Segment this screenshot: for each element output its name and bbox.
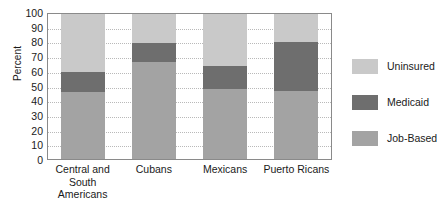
- plot-area: [47, 13, 332, 160]
- bar-segment-uninsured[interactable]: [61, 14, 105, 72]
- bar-segment-job-based[interactable]: [203, 89, 247, 159]
- bar-group: [190, 14, 261, 159]
- bar-segment-medicaid[interactable]: [61, 72, 105, 92]
- bar-segment-medicaid[interactable]: [203, 66, 247, 89]
- y-tick-label: 80: [31, 37, 43, 47]
- legend-swatch-icon: [352, 59, 378, 74]
- y-tick-label: 90: [31, 23, 43, 33]
- bar-segment-job-based[interactable]: [61, 92, 105, 159]
- y-tick-label: 60: [31, 67, 43, 77]
- y-tick-label: 20: [31, 126, 43, 136]
- bar-stack[interactable]: [61, 14, 105, 159]
- bar-stack[interactable]: [132, 14, 176, 159]
- legend-swatch-icon: [352, 95, 378, 110]
- y-tick-label: 50: [31, 82, 43, 92]
- legend-item[interactable]: Job-Based: [352, 120, 434, 156]
- bars-layer: [48, 14, 331, 159]
- bar-segment-medicaid[interactable]: [132, 43, 176, 62]
- bar-segment-medicaid[interactable]: [274, 42, 318, 91]
- legend-swatch-icon: [352, 131, 378, 146]
- bar-group: [119, 14, 190, 159]
- bar-segment-job-based[interactable]: [132, 62, 176, 159]
- bar-group: [48, 14, 119, 159]
- y-tick-label: 10: [31, 140, 43, 150]
- bar-segment-uninsured[interactable]: [274, 14, 318, 42]
- legend-item[interactable]: Medicaid: [352, 84, 434, 120]
- y-tick-label: 70: [31, 52, 43, 62]
- legend-label: Uninsured: [387, 60, 435, 72]
- x-tick-label: Cubans: [118, 163, 189, 201]
- bar-stack[interactable]: [274, 14, 318, 159]
- legend-item[interactable]: Uninsured: [352, 48, 434, 84]
- legend-label: Job-Based: [387, 132, 437, 144]
- legend-label: Medicaid: [387, 96, 429, 108]
- x-tick-label: Mexicans: [190, 163, 261, 201]
- y-tick-label: 0: [37, 155, 43, 165]
- y-tick-label: 30: [31, 111, 43, 121]
- x-axis-tick-labels: Central and South AmericansCubansMexican…: [47, 163, 332, 201]
- x-tick-label: Central and South Americans: [47, 163, 118, 201]
- y-axis-tick-labels: 1009080706050403020100: [10, 13, 43, 160]
- chart-legend: UninsuredMedicaidJob-Based: [352, 48, 434, 156]
- bar-segment-uninsured[interactable]: [203, 14, 247, 66]
- bar-stack[interactable]: [203, 14, 247, 159]
- bar-segment-uninsured[interactable]: [132, 14, 176, 43]
- x-tick-label: Puerto Ricans: [261, 163, 332, 201]
- bar-group: [260, 14, 331, 159]
- y-tick-label: 100: [25, 8, 43, 18]
- y-tick-label: 40: [31, 96, 43, 106]
- bar-segment-job-based[interactable]: [274, 91, 318, 159]
